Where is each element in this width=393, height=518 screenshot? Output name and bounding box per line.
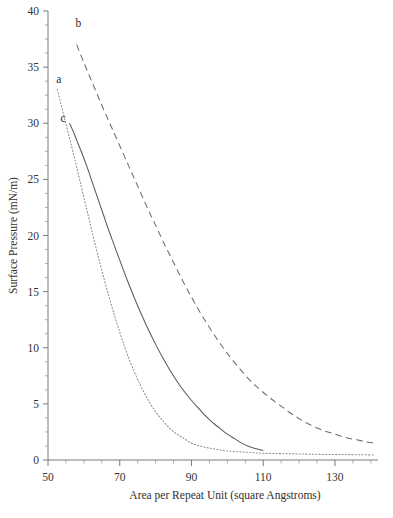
x-tick-label: 110 bbox=[255, 471, 272, 483]
x-axis-tick-labels: 507090110130 bbox=[42, 471, 344, 483]
x-tick-label: 130 bbox=[326, 471, 344, 483]
y-axis: 0510152025303540 Surface Pressure (mN/m) bbox=[7, 5, 48, 466]
curve-series-b bbox=[77, 45, 377, 443]
y-tick-label: 5 bbox=[33, 398, 39, 410]
series-label-a: a bbox=[56, 73, 61, 85]
series-label-b: b bbox=[76, 17, 82, 29]
x-axis-minor-ticks bbox=[66, 460, 371, 464]
x-tick-label: 70 bbox=[114, 471, 126, 483]
x-tick-label: 90 bbox=[186, 471, 198, 483]
curve-series-a bbox=[57, 90, 374, 455]
data-series-group bbox=[57, 45, 376, 455]
curve-series-c bbox=[70, 123, 264, 450]
y-tick-label: 0 bbox=[33, 454, 39, 466]
chart-container: 0510152025303540 Surface Pressure (mN/m)… bbox=[0, 0, 393, 518]
y-tick-label: 35 bbox=[28, 61, 40, 73]
y-tick-label: 15 bbox=[28, 286, 40, 298]
x-axis: 507090110130 Area per Repeat Unit (squar… bbox=[42, 460, 378, 502]
y-tick-label: 30 bbox=[28, 117, 40, 129]
surface-pressure-isotherm-chart: 0510152025303540 Surface Pressure (mN/m)… bbox=[0, 0, 393, 518]
series-label-c: c bbox=[61, 112, 66, 124]
series-label-group: abc bbox=[56, 17, 81, 124]
x-axis-major-ticks bbox=[48, 460, 335, 466]
x-axis-title: Area per Repeat Unit (square Angstroms) bbox=[129, 489, 320, 502]
y-tick-label: 25 bbox=[28, 173, 40, 185]
y-axis-title: Surface Pressure (mN/m) bbox=[7, 177, 20, 294]
y-tick-label: 40 bbox=[28, 5, 40, 17]
y-axis-major-ticks bbox=[43, 11, 48, 460]
x-tick-label: 50 bbox=[42, 471, 54, 483]
y-axis-tick-labels: 0510152025303540 bbox=[28, 5, 40, 466]
y-tick-label: 10 bbox=[28, 342, 40, 354]
y-tick-label: 20 bbox=[28, 230, 40, 242]
